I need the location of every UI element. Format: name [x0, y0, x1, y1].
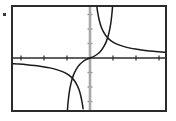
canvas-background [0, 0, 176, 121]
graph-figure [0, 0, 176, 121]
edge-speck-artifact [3, 13, 6, 16]
graph-canvas [0, 0, 176, 121]
